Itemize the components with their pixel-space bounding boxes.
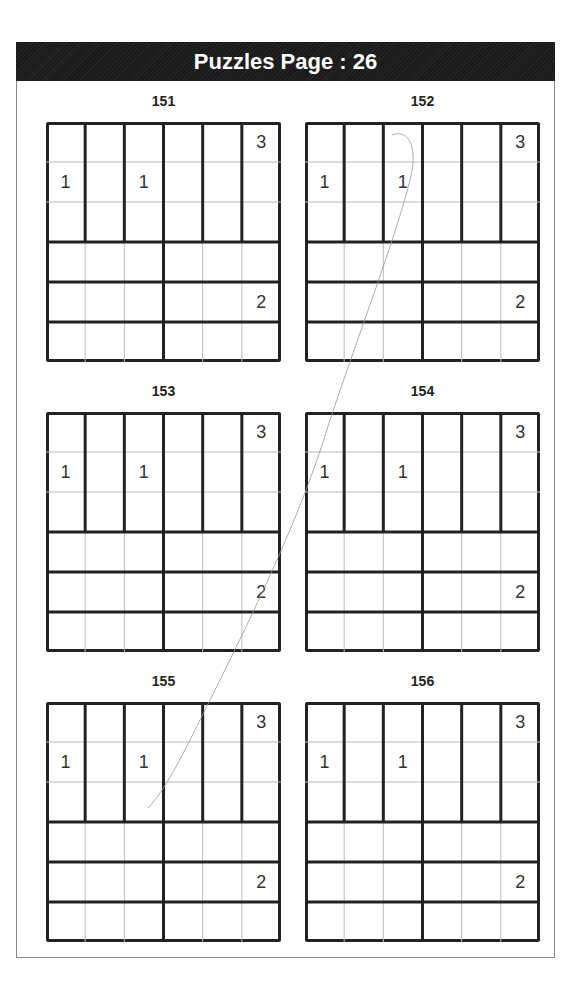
clue-number: 3 bbox=[501, 412, 540, 452]
clue-number: 1 bbox=[46, 742, 85, 782]
page-header: Puzzles Page : 26 bbox=[16, 42, 555, 81]
clue-number: 1 bbox=[305, 162, 344, 202]
puzzle-title: 152 bbox=[305, 93, 540, 109]
clue-number: 1 bbox=[46, 162, 85, 202]
puzzle-title: 155 bbox=[46, 673, 281, 689]
clue-number: 1 bbox=[383, 742, 422, 782]
puzzle-grid-151[interactable]: 3112 bbox=[46, 122, 281, 362]
clue-number: 2 bbox=[501, 572, 540, 612]
clue-number: 2 bbox=[242, 282, 281, 322]
clue-number: 1 bbox=[305, 452, 344, 492]
clue-number: 3 bbox=[242, 122, 281, 162]
clue-number: 1 bbox=[124, 162, 163, 202]
clue-number: 3 bbox=[242, 702, 281, 742]
puzzle-title: 156 bbox=[305, 673, 540, 689]
clue-number: 2 bbox=[242, 572, 281, 612]
puzzle-grid-155[interactable]: 3112 bbox=[46, 702, 281, 942]
puzzle-title: 154 bbox=[305, 383, 540, 399]
puzzle-title: 151 bbox=[46, 93, 281, 109]
puzzle-grid-156[interactable]: 3112 bbox=[305, 702, 540, 942]
clue-number: 3 bbox=[501, 702, 540, 742]
clue-number: 3 bbox=[242, 412, 281, 452]
page-title: Puzzles Page : 26 bbox=[194, 49, 377, 75]
clue-number: 2 bbox=[501, 862, 540, 902]
clue-number: 1 bbox=[46, 452, 85, 492]
clue-number: 1 bbox=[383, 162, 422, 202]
puzzle-grid-154[interactable]: 3112 bbox=[305, 412, 540, 652]
clue-number: 2 bbox=[501, 282, 540, 322]
clue-number: 1 bbox=[124, 742, 163, 782]
clue-number: 2 bbox=[242, 862, 281, 902]
puzzle-title: 153 bbox=[46, 383, 281, 399]
clue-number: 1 bbox=[124, 452, 163, 492]
clue-number: 1 bbox=[383, 452, 422, 492]
clue-number: 1 bbox=[305, 742, 344, 782]
clue-number: 3 bbox=[501, 122, 540, 162]
puzzle-grid-152[interactable]: 3112 bbox=[305, 122, 540, 362]
puzzle-grid-153[interactable]: 3112 bbox=[46, 412, 281, 652]
